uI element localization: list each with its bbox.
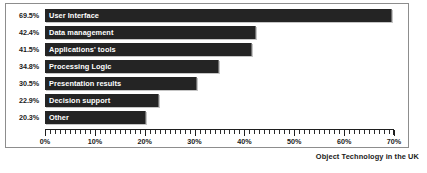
axis-tick-minor <box>85 130 86 134</box>
x-axis: 0%10%20%30%40%50%60%70% <box>45 129 394 149</box>
axis-tick-minor <box>254 130 255 134</box>
axis-tick-label: 0% <box>40 137 50 146</box>
axis-tick-minor <box>220 130 221 134</box>
axis-tick-major <box>45 130 46 136</box>
bar-track: Processing Logic <box>45 60 394 73</box>
chart-container: 69.5%User Interface42.4%Data management4… <box>0 0 427 173</box>
axis-tick-label: 30% <box>187 137 201 146</box>
plot-area: 69.5%User Interface42.4%Data management4… <box>6 4 408 147</box>
axis-tick-minor <box>60 130 61 134</box>
axis-tick-minor <box>354 130 355 134</box>
axis-tick-minor <box>120 130 121 134</box>
axis-tick-minor <box>210 130 211 134</box>
axis-tick-minor <box>259 130 260 134</box>
axis-tick-minor <box>349 130 350 134</box>
bar-category-label: Other <box>49 111 69 124</box>
bar-track: Applications' tools <box>45 43 394 56</box>
axis-tick-minor <box>165 130 166 134</box>
bar-fill: Decision support <box>45 94 159 107</box>
axis-tick-minor <box>90 130 91 134</box>
axis-tick-minor <box>359 130 360 134</box>
axis-tick-label: 40% <box>237 137 251 146</box>
bar-value-label: 22.9% <box>6 94 39 107</box>
axis-tick-minor <box>309 130 310 134</box>
bar-value-label: 42.4% <box>6 26 39 39</box>
axis-tick-minor <box>264 130 265 134</box>
axis-tick-minor <box>339 130 340 134</box>
axis-tick-minor <box>110 130 111 134</box>
bar-series: 69.5%User Interface42.4%Data management4… <box>6 9 408 128</box>
axis-tick-minor <box>150 130 151 134</box>
bar-track: Decision support <box>45 94 394 107</box>
axis-tick-minor <box>389 130 390 134</box>
axis-tick-label: 60% <box>337 137 351 146</box>
axis-tick-minor <box>80 130 81 134</box>
axis-tick-minor <box>384 130 385 134</box>
bar-fill: Other <box>45 111 146 124</box>
bar-value-label: 34.8% <box>6 60 39 73</box>
axis-tick-minor <box>135 130 136 134</box>
axis-tick-minor <box>155 130 156 134</box>
axis-tick-minor <box>369 130 370 134</box>
axis-tick-minor <box>115 130 116 134</box>
axis-tick-minor <box>185 130 186 134</box>
axis-tick-minor <box>239 130 240 134</box>
axis-tick-minor <box>50 130 51 134</box>
axis-tick-minor <box>379 130 380 134</box>
axis-tick-label: 50% <box>287 137 301 146</box>
axis-tick-minor <box>324 130 325 134</box>
axis-tick-minor <box>160 130 161 134</box>
axis-tick-minor <box>55 130 56 134</box>
bar-row: 69.5%User Interface <box>6 9 408 22</box>
axis-tick-minor <box>125 130 126 134</box>
bar-row: 41.5%Applications' tools <box>6 43 408 56</box>
bar-category-label: User Interface <box>49 9 99 22</box>
axis-tick-minor <box>284 130 285 134</box>
bar-fill: Applications' tools <box>45 43 252 56</box>
bar-fill: Presentation results <box>45 77 197 90</box>
axis-tick-minor <box>374 130 375 134</box>
bar-fill: User Interface <box>45 9 392 22</box>
bar-row: 34.8%Processing Logic <box>6 60 408 73</box>
axis-tick-minor <box>215 130 216 134</box>
axis-tick-minor <box>314 130 315 134</box>
axis-tick-minor <box>224 130 225 134</box>
bar-category-label: Presentation results <box>49 77 121 90</box>
axis-tick-minor <box>334 130 335 134</box>
axis-tick-label: 10% <box>88 137 102 146</box>
axis-tick-label: 20% <box>138 137 152 146</box>
bar-category-label: Applications' tools <box>49 43 116 56</box>
axis-tick-minor <box>170 130 171 134</box>
bar-category-label: Data management <box>49 26 113 39</box>
bar-value-label: 41.5% <box>6 43 39 56</box>
bar-category-label: Decision support <box>49 94 110 107</box>
bar-value-label: 20.3% <box>6 111 39 124</box>
bar-fill: Processing Logic <box>45 60 219 73</box>
bar-value-label: 30.5% <box>6 77 39 90</box>
axis-tick-minor <box>234 130 235 134</box>
axis-tick-minor <box>274 130 275 134</box>
axis-tick-minor <box>299 130 300 134</box>
axis-tick-minor <box>65 130 66 134</box>
bar-value-label: 69.5% <box>6 9 39 22</box>
axis-tick-minor <box>105 130 106 134</box>
axis-tick-minor <box>200 130 201 134</box>
bar-row: 20.3%Other <box>6 111 408 124</box>
axis-tick-minor <box>304 130 305 134</box>
axis-tick-minor <box>269 130 270 134</box>
axis-tick-minor <box>319 130 320 134</box>
axis-tick-major <box>95 130 96 136</box>
axis-tick-minor <box>329 130 330 134</box>
axis-tick-minor <box>140 130 141 134</box>
axis-tick-minor <box>130 130 131 134</box>
axis-tick-minor <box>364 130 365 134</box>
axis-tick-minor <box>75 130 76 134</box>
axis-tick-major <box>294 130 295 136</box>
axis-tick-minor <box>279 130 280 134</box>
chart-frame: 69.5%User Interface42.4%Data management4… <box>5 3 409 148</box>
axis-tick-minor <box>229 130 230 134</box>
axis-tick-minor <box>190 130 191 134</box>
axis-tick-major <box>145 130 146 136</box>
bar-track: User Interface <box>45 9 394 22</box>
axis-tick-minor <box>289 130 290 134</box>
